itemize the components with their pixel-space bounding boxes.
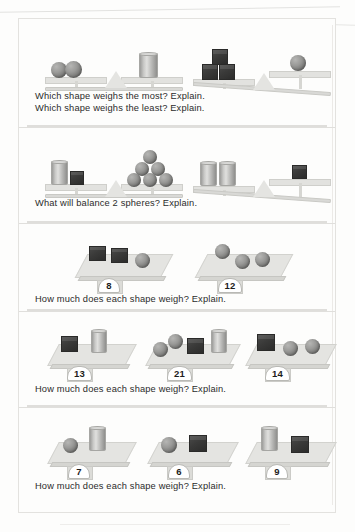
scale-reading: 6 <box>168 464 190 479</box>
panel-2-prompt: What will balance 2 spheres? Explain. <box>19 198 197 210</box>
panel-2: What will balance 2 spheres? Explain. <box>19 127 335 223</box>
scale-4a: 13 <box>35 322 140 382</box>
scale-reading: 9 <box>266 464 288 479</box>
sphere-shape <box>168 334 183 349</box>
sphere-shape <box>159 173 173 187</box>
sphere-shape <box>235 254 250 269</box>
cube-shape <box>187 338 204 354</box>
cube-shape <box>292 165 307 179</box>
panel-3: 8 12 How much does each shape weigh? Exp… <box>19 223 335 311</box>
sphere-shape <box>255 252 270 267</box>
panel-1: Which shape weighs the most? Explain. Wh… <box>19 19 335 127</box>
balance-fulcrum <box>105 180 127 197</box>
balance-2b <box>187 136 337 198</box>
sphere-shape <box>153 342 168 357</box>
scale-3b: 12 <box>187 234 297 294</box>
cylinder-shape <box>200 162 217 186</box>
scale-4c: 14 <box>235 322 340 382</box>
panel-5-prompt: How much does each shape weigh? Explain. <box>19 481 226 493</box>
worksheet-sheet: Which shape weighs the most? Explain. Wh… <box>18 18 336 513</box>
cube-shape <box>189 435 207 452</box>
scan-artifact-line-top <box>0 6 340 12</box>
scale-reading: 13 <box>67 366 92 381</box>
cube-shape <box>70 171 84 185</box>
balance-fulcrum <box>253 73 275 90</box>
cylinder-shape <box>219 162 236 186</box>
sphere-shape <box>135 253 150 268</box>
prompt-line: How much does each shape weigh? Explain. <box>35 481 226 493</box>
cylinder-shape <box>89 427 106 451</box>
prompt-line: How much does each shape weigh? Explain. <box>35 294 226 306</box>
cube-shape <box>257 334 275 351</box>
scale-5b: 6 <box>135 420 240 480</box>
scale-reading: 14 <box>265 366 290 381</box>
scale-4b: 21 <box>135 322 245 382</box>
sphere-shape <box>215 244 230 259</box>
sphere-shape <box>143 173 157 187</box>
cylinder-shape <box>139 53 158 78</box>
prompt-line: Which shape weighs the least? Explain. <box>35 103 205 115</box>
sphere-shape <box>305 339 320 354</box>
scale-reading: 7 <box>68 464 90 479</box>
balance-1b <box>187 27 337 89</box>
prompt-line: What will balance 2 spheres? Explain. <box>35 198 197 210</box>
balance-2a <box>39 136 189 198</box>
prompt-line: Which shape weighs the most? Explain. <box>35 91 205 103</box>
cylinder-shape <box>211 330 227 353</box>
scale-reading: 21 <box>167 366 192 381</box>
panel-4: 13 21 14 How much does each shape <box>19 311 335 407</box>
panel-3-prompt: How much does each shape weigh? Explain. <box>19 294 226 306</box>
scale-reading: 12 <box>218 278 242 293</box>
cube-shape <box>202 64 218 80</box>
balance-post-right <box>299 183 302 197</box>
scale-reading: 8 <box>98 278 120 293</box>
sphere-shape <box>65 61 82 78</box>
scan-artifact-line-bottom <box>60 524 290 525</box>
balance-post-right <box>299 75 302 89</box>
sphere-shape <box>63 438 78 453</box>
cylinder-shape <box>261 427 278 451</box>
scale-5c: 9 <box>235 420 340 480</box>
scale-3a: 8 <box>67 234 177 294</box>
cylinder-shape <box>91 330 107 353</box>
scale-5a: 7 <box>35 420 140 480</box>
cube-shape <box>111 248 128 263</box>
sphere-shape <box>283 341 298 356</box>
panel-4-prompt: How much does each shape weigh? Explain. <box>19 384 226 396</box>
cube-shape <box>219 64 235 80</box>
balance-fulcrum <box>253 180 275 197</box>
cube-shape <box>61 336 78 352</box>
sphere-shape <box>127 173 141 187</box>
balance-fulcrum <box>105 71 127 88</box>
cylinder-shape <box>51 161 68 185</box>
panel-1-prompt: Which shape weighs the most? Explain. Wh… <box>19 91 205 114</box>
sphere-shape <box>290 55 306 71</box>
cube-shape <box>291 436 309 453</box>
prompt-line: How much does each shape weigh? Explain. <box>35 384 226 396</box>
cube-shape <box>212 49 228 65</box>
balance-1a <box>39 31 189 93</box>
sphere-shape <box>161 437 177 453</box>
cube-shape <box>89 246 106 261</box>
panel-5: 7 6 9 How much does each shape weigh? Ex… <box>19 407 335 504</box>
